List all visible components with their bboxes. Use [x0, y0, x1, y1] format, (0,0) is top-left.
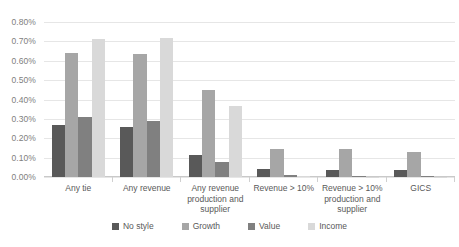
bar[interactable]: [65, 53, 78, 177]
legend-item[interactable]: Growth: [182, 222, 220, 231]
legend-label: Value: [259, 222, 280, 231]
y-axis: 0.00%0.10%0.20%0.30%0.40%0.50%0.60%0.70%…: [0, 22, 40, 177]
bar[interactable]: [160, 38, 173, 177]
category-tick: [318, 177, 387, 182]
bar-group: [113, 22, 182, 177]
category-tick: [44, 177, 113, 182]
y-axis-tick-label: 0.10%: [11, 153, 36, 162]
plot-area: 0.00%0.10%0.20%0.30%0.40%0.50%0.60%0.70%…: [0, 0, 459, 190]
bars-container: [44, 22, 455, 177]
category-tick: [181, 177, 250, 182]
bar-group-inner: [257, 22, 310, 177]
bar-group-inner: [120, 22, 173, 177]
bar[interactable]: [133, 54, 146, 177]
bar-group-inner: [52, 22, 105, 177]
bar[interactable]: [215, 162, 228, 177]
bar-group: [387, 22, 456, 177]
bar-group: [181, 22, 250, 177]
bar[interactable]: [120, 127, 133, 177]
legend-swatch-icon: [308, 223, 315, 230]
legend-swatch-icon: [248, 223, 255, 230]
legend-item[interactable]: Value: [248, 222, 280, 231]
y-axis-tick-label: 0.80%: [11, 18, 36, 27]
y-axis-tick-label: 0.20%: [11, 134, 36, 143]
x-axis-category-label: Any revenue: [113, 183, 182, 215]
legend-item[interactable]: No style: [112, 222, 154, 231]
category-tick: [113, 177, 182, 182]
bar-group: [318, 22, 387, 177]
bar-group-inner: [189, 22, 242, 177]
bar-group-inner: [326, 22, 379, 177]
bar[interactable]: [202, 90, 215, 177]
x-axis-labels: Any tieAny revenueAny revenue production…: [44, 183, 455, 215]
y-axis-tick-label: 0.70%: [11, 37, 36, 46]
bar-group: [250, 22, 319, 177]
legend-item[interactable]: Income: [308, 222, 347, 231]
y-axis-tick-label: 0.60%: [11, 57, 36, 66]
category-tick-marks: [44, 177, 455, 182]
bar[interactable]: [326, 170, 339, 177]
chart-legend: No styleGrowthValueIncome: [0, 222, 459, 231]
bar[interactable]: [52, 125, 65, 177]
bar[interactable]: [147, 121, 160, 177]
bar[interactable]: [229, 106, 242, 177]
legend-label: No style: [123, 222, 154, 231]
bar-group-inner: [394, 22, 447, 177]
bar[interactable]: [394, 170, 407, 177]
bar[interactable]: [257, 169, 270, 177]
y-axis-tick-label: 0.40%: [11, 95, 36, 104]
category-tick: [250, 177, 319, 182]
x-axis-category-label: GICS: [387, 183, 456, 215]
bar[interactable]: [270, 149, 283, 177]
legend-swatch-icon: [182, 223, 189, 230]
bar-chart: 0.00%0.10%0.20%0.30%0.40%0.50%0.60%0.70%…: [0, 0, 459, 247]
x-axis-category-label: Revenue > 10% production and supplier: [318, 183, 387, 215]
legend-swatch-icon: [112, 223, 119, 230]
legend-label: Income: [319, 222, 347, 231]
y-axis-tick-label: 0.30%: [11, 115, 36, 124]
bar[interactable]: [339, 149, 352, 177]
x-axis-category-label: Any tie: [44, 183, 113, 215]
y-axis-tick-label: 0.00%: [11, 173, 36, 182]
x-axis-category-label: Revenue > 10%: [250, 183, 319, 215]
legend-label: Growth: [193, 222, 220, 231]
bar[interactable]: [407, 152, 420, 177]
y-axis-tick-label: 0.50%: [11, 76, 36, 85]
bar-group: [44, 22, 113, 177]
category-tick: [387, 177, 456, 182]
bar[interactable]: [189, 155, 202, 177]
bar[interactable]: [92, 39, 105, 177]
x-axis-category-label: Any revenue production and supplier: [181, 183, 250, 215]
bar[interactable]: [78, 117, 91, 177]
